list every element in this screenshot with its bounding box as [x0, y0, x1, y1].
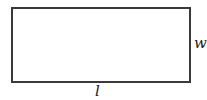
length-label: l [95, 84, 100, 99]
width-label: w [194, 36, 207, 51]
rectangle-shape [11, 7, 191, 83]
